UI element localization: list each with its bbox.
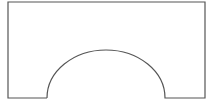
arch-shape-figure: [0, 0, 214, 104]
rectangle-with-arch-outline: [8, 2, 205, 98]
diagram-canvas: [0, 0, 214, 104]
